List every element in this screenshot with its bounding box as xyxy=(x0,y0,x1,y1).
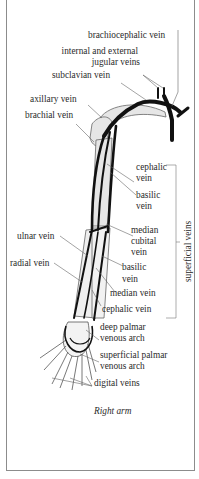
label-axillary-vein: axillary vein xyxy=(30,94,77,105)
label-deep-palmar-arch-2: venous arch xyxy=(100,333,145,344)
label-ulnar-vein: ulnar vein xyxy=(17,231,54,242)
label-brachial-vein: brachial vein xyxy=(25,110,73,121)
label-jugular-veins-2: jugular veins xyxy=(48,57,140,68)
label-cephalic-vein-lower: cephalic vein xyxy=(102,304,151,315)
label-jugular-veins-1: internal and external xyxy=(48,46,138,57)
label-superficial-palmar-arch-2: venous arch xyxy=(100,361,145,372)
label-basilic-vein-lower-2: vein xyxy=(122,274,138,285)
label-cephalic-vein-upper-2: vein xyxy=(136,173,152,184)
caption: Right arm xyxy=(94,406,131,417)
label-brachiocephalic-vein: brachiocephalic vein xyxy=(88,30,165,41)
hand-outline xyxy=(40,322,96,390)
label-median-cubital-vein-2: cubital xyxy=(131,236,156,247)
label-basilic-vein-lower: basilic xyxy=(122,262,146,273)
label-basilic-vein-upper-2: vein xyxy=(136,201,152,212)
label-median-cubital-vein-1: median xyxy=(131,225,158,236)
label-digital-veins: digital veins xyxy=(94,378,140,389)
label-subclavian-vein: subclavian vein xyxy=(52,70,110,81)
superficial-veins-bracket xyxy=(166,165,180,318)
label-basilic-vein-upper: basilic xyxy=(136,190,160,201)
arm-outline xyxy=(74,105,166,318)
label-cephalic-vein-upper: cephalic xyxy=(136,162,167,173)
label-deep-palmar-arch-1: deep palmar xyxy=(100,322,146,333)
label-superficial-palmar-arch-1: superficial palmar xyxy=(100,350,167,361)
label-superficial-veins-group: superficial veins xyxy=(183,221,193,282)
label-median-cubital-vein-3: vein xyxy=(131,247,147,258)
label-median-vein: median vein xyxy=(110,288,156,299)
label-radial-vein: radial vein xyxy=(10,258,50,269)
